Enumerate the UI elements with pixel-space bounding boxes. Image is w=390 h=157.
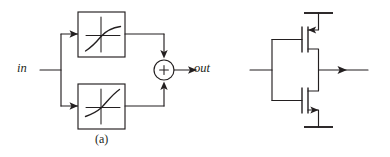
input-label: in: [17, 62, 27, 75]
nmos-drain-wire: [308, 70, 319, 91]
panel-b: Vin Iout (b): [230, 0, 390, 157]
output-label: out: [194, 62, 210, 75]
panel-b-drawing: [230, 0, 390, 157]
nmos-source-wire: [308, 110, 319, 127]
panel-a: in out (a): [0, 0, 230, 157]
panel-a-drawing: [0, 0, 230, 157]
caption-a: (a): [95, 133, 108, 145]
pmos-drain-wire: [308, 49, 319, 70]
figure-root: in out (a): [0, 0, 390, 157]
